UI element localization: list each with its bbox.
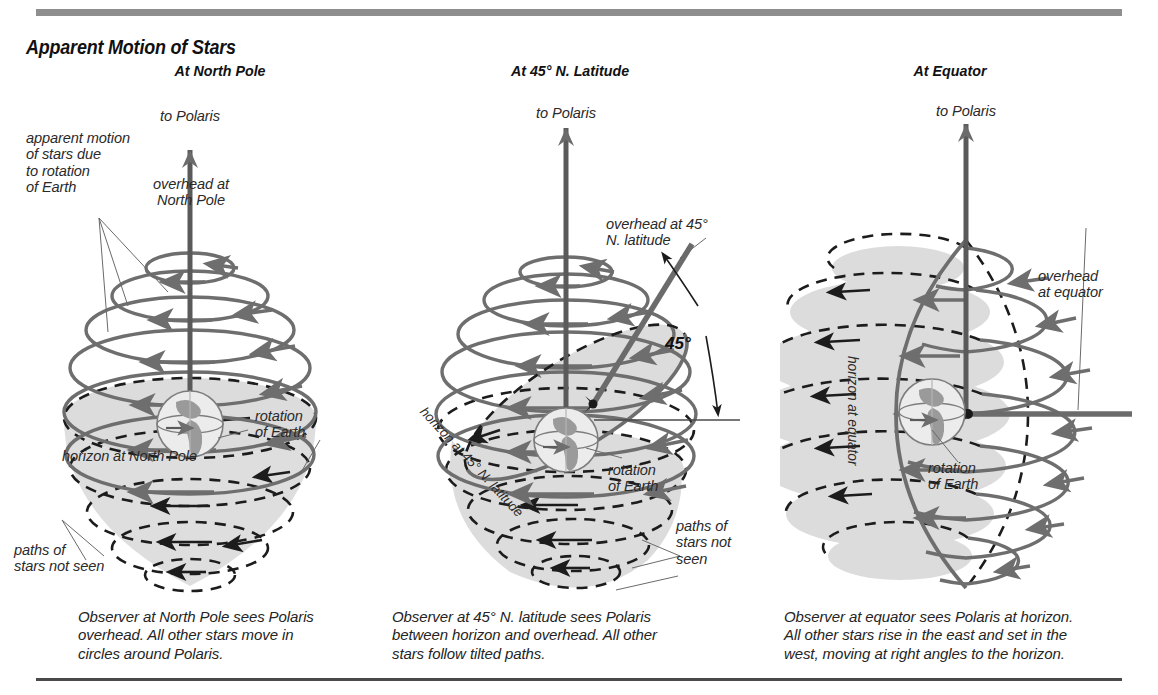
- observer-point-45: [589, 400, 598, 409]
- label-horizon-np: horizon at North Pole: [62, 448, 292, 464]
- label-rotation-of-earth-45: rotation of Earth: [608, 462, 694, 495]
- label-angle-45: 45°: [665, 334, 691, 354]
- caption-north-pole: Observer at North Pole sees Polaris over…: [78, 608, 368, 663]
- caption-equator: Observer at equator sees Polaris at hori…: [784, 608, 1144, 663]
- label-paths-not-seen-45: paths of stars not seen: [676, 518, 776, 567]
- earth-globe-45: [534, 408, 598, 472]
- north-pole-diagram: [0, 0, 380, 695]
- label-overhead-eq: overhead at equator: [1038, 268, 1154, 301]
- caption-45-north: Observer at 45° N. latitude sees Polaris…: [392, 608, 732, 663]
- label-rotation-of-earth-np: rotation of Earth: [255, 408, 345, 441]
- label-to-polaris-eq: to Polaris: [906, 103, 1026, 119]
- label-horizon-eq: horizon at equator: [845, 356, 860, 546]
- panel-equator: to Polaris overhead at equator rotation …: [780, 0, 1158, 695]
- label-apparent-motion: apparent motion of stars due to rotation…: [26, 130, 144, 195]
- label-overhead-np: overhead at North Pole: [128, 176, 254, 209]
- label-rotation-of-earth-eq: rotation of Earth: [928, 460, 1018, 493]
- earth-globe-eq: [899, 379, 965, 445]
- panel-45-north: to Polaris overhead at 45° N. latitude 4…: [380, 0, 780, 695]
- label-to-polaris-45: to Polaris: [506, 105, 626, 121]
- label-overhead-45: overhead at 45° N. latitude: [606, 216, 756, 249]
- label-to-polaris-np: to Polaris: [130, 108, 250, 124]
- label-paths-not-seen-np: paths of stars not seen: [14, 542, 134, 575]
- panel-north-pole: to Polaris overhead at North Pole appare…: [0, 0, 380, 695]
